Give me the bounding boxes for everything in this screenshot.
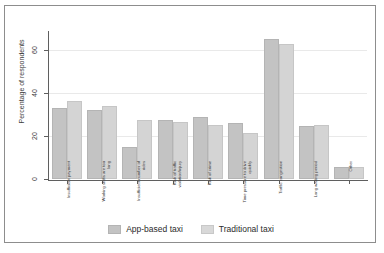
x-tick-label-text: Risk of crime [208, 161, 213, 207]
figure-caption [0, 246, 384, 253]
y-tick-label: 0 [26, 174, 42, 184]
legend-entry-traditional-taxi[interactable]: Traditional taxi [201, 224, 274, 234]
x-tick-label-text: Insufficient number of rides [137, 161, 146, 207]
bar[interactable] [264, 39, 279, 179]
x-tick-label-text: Working shifts are too long [102, 161, 111, 207]
y-tick-label-text: 60 [29, 42, 39, 58]
bar-group [296, 33, 331, 179]
bar[interactable] [87, 110, 102, 179]
bar-group [84, 33, 119, 179]
y-tick-mark [44, 50, 48, 51]
y-tick-label: 60 [26, 45, 42, 55]
y-tick-label: 40 [26, 88, 42, 98]
y-tick-label: 20 [26, 131, 42, 141]
y-tick-mark [44, 179, 48, 180]
y-axis-title: Percentage of respondents [18, 14, 25, 150]
legend-label: Traditional taxi [219, 224, 274, 234]
x-tick-label-text: Other [349, 161, 354, 207]
y-tick-label-text: 20 [29, 128, 39, 144]
bar-group [226, 33, 261, 179]
chart-legend: App-based taxi Traditional taxi [5, 224, 377, 234]
bar-group [120, 33, 155, 179]
bar-group [261, 33, 296, 179]
legend-entry-app-based-taxi[interactable]: App-based taxi [108, 224, 183, 234]
x-tick-label-text: Risk of traffic violation/injury [173, 161, 182, 207]
legend-label: App-based taxi [126, 224, 183, 234]
bar[interactable] [52, 108, 67, 179]
bar[interactable] [158, 120, 173, 179]
legend-swatch-icon [201, 225, 214, 234]
y-tick-mark [44, 136, 48, 137]
x-tick-label-text: Time pressure to drive quickly [243, 161, 252, 207]
x-tick-label-text: Insufficient payment [67, 161, 72, 207]
bar[interactable] [279, 44, 294, 179]
bar-group [155, 33, 190, 179]
x-tick-label-text: Long waiting period [314, 161, 319, 207]
bar[interactable] [193, 117, 208, 179]
y-tick-label-text: 40 [29, 85, 39, 101]
figure-frame: Percentage of respondents 0204060 Insuff… [4, 5, 376, 243]
x-tick-label-text: Traffic congestion [279, 161, 284, 207]
bar-group [332, 33, 367, 179]
bar[interactable] [299, 126, 314, 179]
legend-swatch-icon [108, 225, 121, 234]
y-tick-mark [44, 93, 48, 94]
y-tick-label-text: 0 [29, 171, 39, 187]
bar-group [49, 33, 84, 179]
bar-group [190, 33, 225, 179]
plot-area [49, 33, 367, 179]
